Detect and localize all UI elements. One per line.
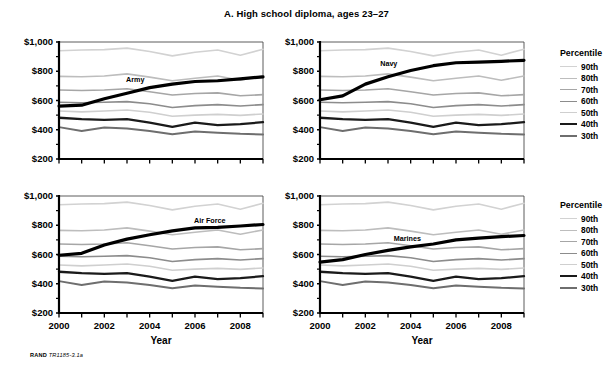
legend-label-50th: 50th (581, 260, 598, 270)
legend-item-40th[interactable]: 40th (560, 271, 602, 283)
y-axis-tick-label: $1,000 (270, 36, 314, 47)
legend-item-70th[interactable]: 70th (560, 236, 602, 248)
legend-swatch-40th (560, 123, 577, 125)
legend-label-80th: 80th (581, 225, 598, 235)
y-axis-tick-label: $200 (9, 307, 53, 318)
legend-label-30th: 30th (581, 283, 598, 293)
credit-id: TR1185-3.1a (49, 352, 83, 358)
legend-swatch-50th (560, 264, 577, 265)
y-axis-tick-label: $800 (9, 65, 53, 76)
legend-label-40th: 40th (581, 119, 598, 129)
plot-background (320, 196, 524, 313)
legend-label-60th: 60th (581, 96, 598, 106)
plot-area-air-force (56, 194, 266, 321)
x-axis-title: Year (320, 335, 524, 346)
legend-swatch-70th (560, 241, 577, 242)
legend-swatch-40th (560, 275, 577, 277)
legend-label-30th: 30th (581, 131, 598, 141)
y-axis-tick-label: $1,000 (270, 190, 314, 201)
x-axis-tick-label: 2002 (345, 320, 385, 331)
legend-item-80th[interactable]: 80th (560, 225, 602, 237)
legend-swatch-90th (560, 66, 577, 67)
x-axis-tick-label: 2008 (220, 320, 260, 331)
legend-swatch-30th (560, 287, 577, 289)
y-axis-tick-label: $400 (9, 278, 53, 289)
series-label-air-force: Air Force (194, 216, 226, 225)
y-axis-tick-label: $800 (9, 219, 53, 230)
plot-background (59, 196, 263, 313)
legend-swatch-60th (560, 101, 577, 102)
plot-background (59, 42, 263, 159)
legend-swatch-80th (560, 230, 577, 231)
legend-swatch-70th (560, 89, 577, 90)
series-label-army: Army (126, 75, 144, 84)
legend-item-70th[interactable]: 70th (560, 84, 602, 96)
legend-label-50th: 50th (581, 108, 598, 118)
legend-label-80th: 80th (581, 73, 598, 83)
legend-item-80th[interactable]: 80th (560, 73, 602, 85)
x-axis-tick-label: 2004 (130, 320, 170, 331)
x-axis-tick-label: 2008 (481, 320, 521, 331)
x-axis-tick-label: 2006 (175, 320, 215, 331)
y-axis-tick-label: $600 (9, 249, 53, 260)
legend-item-60th[interactable]: 60th (560, 96, 602, 108)
x-axis-tick-label: 2006 (436, 320, 476, 331)
credit-prefix: RAND (30, 352, 47, 358)
y-axis-tick-label: $600 (9, 95, 53, 106)
legend-label-70th: 70th (581, 85, 598, 95)
y-axis-tick-label: $400 (270, 124, 314, 135)
legend-title: Percentile (560, 200, 602, 210)
legend-item-90th[interactable]: 90th (560, 213, 602, 225)
plot-area-army (56, 40, 266, 167)
legend-title: Percentile (560, 48, 602, 58)
y-axis-tick-label: $200 (270, 307, 314, 318)
legend-item-50th[interactable]: 50th (560, 107, 602, 119)
x-axis-tick-label: 2002 (84, 320, 124, 331)
plot-background (320, 42, 524, 159)
percentile-legend-2: Percentile90th80th70th60th50th40th30th (560, 200, 602, 294)
legend-swatch-50th (560, 112, 577, 113)
series-label-marines: Marines (394, 234, 421, 243)
y-axis-tick-label: $800 (270, 65, 314, 76)
y-axis-tick-label: $800 (270, 219, 314, 230)
y-axis-tick-label: $600 (270, 249, 314, 260)
series-label-navy: Navy (380, 59, 397, 68)
legend-item-30th[interactable]: 30th (560, 282, 602, 294)
legend-swatch-60th (560, 253, 577, 254)
figure-root: A. High school diploma, ages 23–27 Army$… (0, 0, 613, 380)
x-axis-tick-label: 2004 (391, 320, 431, 331)
legend-label-90th: 90th (581, 214, 598, 224)
legend-item-60th[interactable]: 60th (560, 248, 602, 260)
percentile-legend-1: Percentile90th80th70th60th50th40th30th (560, 48, 602, 142)
legend-swatch-90th (560, 218, 577, 219)
y-axis-tick-label: $400 (270, 278, 314, 289)
figure-credit: RAND TR1185-3.1a (30, 352, 83, 358)
legend-label-60th: 60th (581, 248, 598, 258)
y-axis-tick-label: $200 (9, 153, 53, 164)
legend-item-30th[interactable]: 30th (560, 130, 602, 142)
legend-swatch-30th (560, 135, 577, 137)
legend-item-90th[interactable]: 90th (560, 61, 602, 73)
y-axis-tick-label: $1,000 (9, 190, 53, 201)
y-axis-tick-label: $400 (9, 124, 53, 135)
y-axis-tick-label: $200 (270, 153, 314, 164)
legend-label-40th: 40th (581, 271, 598, 281)
legend-item-50th[interactable]: 50th (560, 259, 602, 271)
plot-area-marines (317, 194, 527, 321)
legend-item-40th[interactable]: 40th (560, 119, 602, 131)
x-axis-tick-label: 2000 (39, 320, 79, 331)
figure-title: A. High school diploma, ages 23–27 (0, 8, 613, 19)
x-axis-title: Year (59, 335, 263, 346)
legend-swatch-80th (560, 78, 577, 79)
x-axis-tick-label: 2000 (300, 320, 340, 331)
plot-area-navy (317, 40, 527, 167)
legend-label-70th: 70th (581, 237, 598, 247)
legend-label-90th: 90th (581, 62, 598, 72)
y-axis-tick-label: $600 (270, 95, 314, 106)
y-axis-tick-label: $1,000 (9, 36, 53, 47)
